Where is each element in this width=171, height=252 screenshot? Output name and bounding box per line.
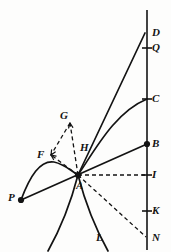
point-marker-p xyxy=(18,197,24,203)
label-b: B xyxy=(152,138,159,149)
label-c: C xyxy=(152,93,159,104)
label-i: I xyxy=(152,169,156,180)
label-d: D xyxy=(152,27,160,38)
label-g: G xyxy=(60,110,68,121)
label-a: A xyxy=(76,180,83,191)
label-p: P xyxy=(8,192,15,203)
dashed-A-to-G xyxy=(70,123,78,175)
label-n: N xyxy=(152,232,160,243)
line-A-to-D xyxy=(78,33,145,175)
dashed-G-to-F xyxy=(51,123,70,155)
figure-canvas xyxy=(0,0,171,252)
label-f: F xyxy=(37,149,44,160)
label-l: L xyxy=(96,232,103,243)
geometry-figure: DQCBIKNAPGFHL xyxy=(0,0,171,252)
point-marker-a xyxy=(75,172,81,178)
label-h: H xyxy=(80,142,89,153)
dashed-G-to-F-arrow-icon xyxy=(51,150,55,155)
curve-A-to-C xyxy=(78,99,147,175)
curve-P-hump-to-A xyxy=(21,162,78,200)
label-q: Q xyxy=(152,42,160,53)
label-k: K xyxy=(152,205,159,216)
point-marker-b xyxy=(144,141,150,147)
